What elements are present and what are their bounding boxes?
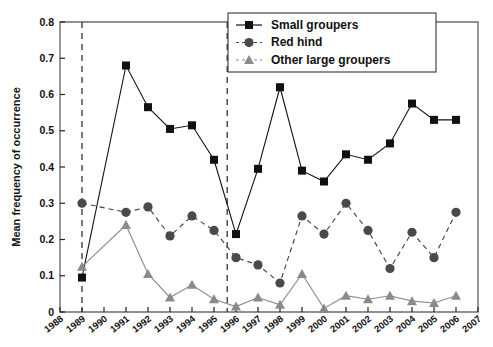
- y-axis-label: Mean frequency of occurrence: [10, 87, 22, 247]
- data-point-marker[interactable]: [385, 264, 394, 273]
- legend-key-marker-1: [244, 38, 253, 47]
- data-point-marker[interactable]: [319, 303, 329, 312]
- data-point-marker[interactable]: [187, 211, 196, 220]
- data-point-marker[interactable]: [143, 202, 152, 211]
- data-point-marker[interactable]: [254, 165, 262, 173]
- data-point-marker[interactable]: [165, 231, 174, 240]
- series-line-1: [82, 203, 456, 283]
- data-point-marker[interactable]: [275, 278, 284, 287]
- data-point-marker[interactable]: [408, 100, 416, 108]
- x-tick-label: 1990: [86, 313, 109, 335]
- data-point-marker[interactable]: [209, 294, 219, 303]
- x-tick-label: 2005: [416, 312, 440, 334]
- x-tick-label: 1997: [240, 313, 263, 335]
- data-point-marker[interactable]: [78, 274, 86, 282]
- legend-key-marker-0: [245, 21, 253, 29]
- x-tick-label: 1992: [130, 313, 153, 335]
- x-tick-label: 1989: [64, 313, 87, 335]
- data-point-marker[interactable]: [231, 253, 240, 262]
- data-point-marker[interactable]: [429, 253, 438, 262]
- y-tick-label: 0.5: [39, 124, 54, 136]
- chart-canvas: 00.10.20.30.40.50.60.70.8198819891990199…: [0, 0, 493, 347]
- data-point-marker[interactable]: [209, 226, 218, 235]
- data-point-marker[interactable]: [253, 260, 262, 269]
- x-tick-label: 1996: [218, 313, 241, 335]
- data-point-marker[interactable]: [121, 208, 130, 217]
- y-tick-label: 0.4: [39, 161, 54, 173]
- data-point-marker[interactable]: [121, 220, 131, 229]
- data-point-marker[interactable]: [297, 211, 306, 220]
- data-point-marker[interactable]: [319, 229, 328, 238]
- data-point-marker[interactable]: [451, 208, 460, 217]
- data-point-marker[interactable]: [364, 156, 372, 164]
- x-tick-label: 2007: [460, 313, 483, 335]
- x-tick-label: 1993: [152, 313, 175, 335]
- y-tick-label: 0.1: [39, 269, 54, 281]
- x-tick-label: 1995: [196, 312, 220, 334]
- y-tick-label: 0.2: [39, 233, 54, 245]
- data-point-marker[interactable]: [210, 156, 218, 164]
- data-point-marker[interactable]: [231, 302, 241, 311]
- x-tick-label: 2006: [438, 313, 461, 335]
- data-point-marker[interactable]: [276, 83, 284, 91]
- data-point-marker[interactable]: [452, 116, 460, 124]
- x-tick-label: 2003: [372, 313, 395, 335]
- data-point-marker[interactable]: [144, 103, 152, 111]
- data-point-marker[interactable]: [166, 125, 174, 133]
- legend-label-1: Red hind: [271, 35, 322, 49]
- data-point-marker[interactable]: [430, 116, 438, 124]
- data-point-marker[interactable]: [341, 199, 350, 208]
- y-tick-label: 0.8: [39, 16, 54, 28]
- x-tick-label: 2001: [328, 312, 352, 334]
- series-line-2: [82, 225, 456, 308]
- y-tick-label: 0.3: [39, 197, 54, 209]
- chart-figure: 00.10.20.30.40.50.60.70.8198819891990199…: [0, 0, 493, 347]
- data-point-marker[interactable]: [451, 291, 461, 300]
- x-tick-label: 2000: [306, 313, 329, 335]
- data-point-marker[interactable]: [77, 199, 86, 208]
- x-tick-label: 1991: [108, 312, 132, 334]
- x-tick-label: 2004: [394, 312, 418, 334]
- x-tick-label: 2002: [350, 313, 373, 335]
- data-point-marker[interactable]: [341, 291, 351, 300]
- legend-label-2: Other large groupers: [271, 53, 391, 67]
- data-point-marker[interactable]: [253, 293, 263, 302]
- x-tick-label: 1994: [174, 312, 198, 334]
- data-point-marker[interactable]: [342, 150, 350, 158]
- data-point-marker[interactable]: [386, 139, 394, 147]
- x-tick-label: 1999: [284, 313, 307, 335]
- x-tick-label: 1988: [42, 313, 65, 335]
- y-tick-label: 0.7: [39, 52, 54, 64]
- data-point-marker[interactable]: [363, 226, 372, 235]
- data-point-marker[interactable]: [122, 62, 130, 70]
- data-point-marker[interactable]: [143, 269, 153, 278]
- data-point-marker[interactable]: [298, 167, 306, 175]
- data-point-marker[interactable]: [297, 269, 307, 278]
- data-point-marker[interactable]: [320, 178, 328, 186]
- y-tick-label: 0.6: [39, 88, 54, 100]
- data-point-marker[interactable]: [407, 228, 416, 237]
- series-line-0: [82, 66, 456, 278]
- data-point-marker[interactable]: [187, 280, 197, 289]
- data-point-marker[interactable]: [232, 230, 240, 238]
- legend-label-0: Small groupers: [271, 18, 359, 32]
- data-point-marker[interactable]: [188, 121, 196, 129]
- data-point-marker[interactable]: [385, 291, 395, 300]
- x-tick-label: 1998: [262, 313, 285, 335]
- data-point-marker[interactable]: [275, 300, 285, 309]
